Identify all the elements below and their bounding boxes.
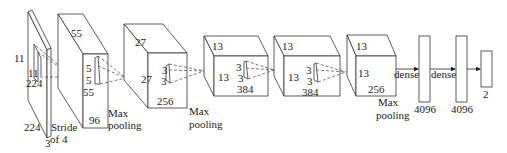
conv5-side-label: 13: [358, 67, 370, 79]
input-height-label: 11: [14, 52, 25, 64]
conv5-depth-label: 256: [368, 83, 385, 95]
cnn-architecture-diagram: 11 11 224 224 3 Stride of 4 55 5 5 55 96…: [0, 0, 507, 153]
conv2-top-label: 27: [135, 36, 147, 48]
conv2-pool-line1: Max: [189, 105, 210, 117]
conv2-kernel-b-label: 3: [161, 75, 167, 87]
conv1-pool-line1: Max: [108, 107, 129, 119]
conv3-side-label: 13: [218, 71, 230, 83]
conv3-layer: 13 13 3 3 384: [204, 36, 274, 96]
conv3-depth-label: 384: [237, 83, 254, 95]
conv3-top-label: 13: [212, 40, 224, 52]
dense-layer-2-units: 4096: [451, 103, 474, 115]
conv5-top-label: 13: [356, 40, 368, 52]
dense-arrow-1-label: dense: [394, 68, 419, 80]
dense-layer-2: [456, 36, 467, 102]
input-kernel-h-label: 224: [26, 77, 43, 89]
dense-arrow-2-label: dense: [431, 68, 456, 80]
dense-layer-1-units: 4096: [414, 103, 437, 115]
conv4-layer: 13 13 3 3 384: [274, 36, 346, 98]
output-layer: [481, 51, 492, 87]
dense-layers: dense 4096 dense 4096 2: [394, 36, 492, 115]
stride-label-line2: of 4: [50, 133, 68, 145]
dense-layer-1: [419, 36, 430, 102]
conv4-side-label: 13: [288, 71, 300, 83]
conv4-depth-label: 384: [302, 86, 319, 98]
conv2-depth-label: 256: [157, 95, 174, 107]
stride-label-line1: Stride: [51, 121, 77, 133]
conv1-pool-line2: pooling: [108, 119, 142, 131]
output-layer-units: 2: [483, 88, 489, 100]
input-width-label: 224: [24, 121, 41, 133]
conv5-pool-line2: pooling: [376, 109, 410, 121]
conv1-side-label: 55: [83, 86, 95, 98]
conv5-pool-line1: Max: [378, 96, 399, 108]
conv1-kernel-b-label: 5: [86, 74, 92, 86]
conv2-pool-line2: pooling: [189, 118, 223, 130]
conv1-kernel-a-label: 5: [86, 62, 92, 74]
conv2-side-label: 27: [141, 73, 153, 85]
conv1-top-label: 55: [71, 27, 83, 39]
conv4-top-label: 13: [282, 40, 294, 52]
conv1-depth-label: 96: [89, 114, 101, 126]
